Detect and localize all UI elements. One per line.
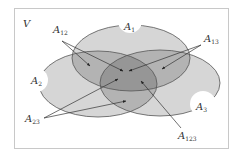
venn-diagram: V A1 A2 A3 A12 A13 A23 A123 [0, 0, 242, 157]
